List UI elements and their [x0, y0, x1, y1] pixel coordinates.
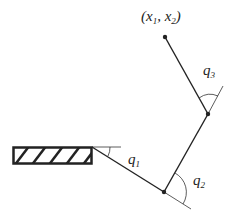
q1-angle-arc	[108, 147, 110, 156]
joint-2	[206, 112, 210, 116]
end-effector	[163, 35, 167, 39]
link-1-extension	[164, 192, 191, 209]
link-2-extension	[208, 86, 223, 114]
end-effector-label: (x1, x2)	[141, 8, 181, 26]
q3-label: q3	[203, 62, 216, 80]
fixed-base	[14, 145, 99, 166]
q2-label: q2	[193, 172, 206, 190]
joint-1	[162, 190, 166, 194]
manipulator-diagram: (x1, x2) q1 q2 q3	[0, 0, 235, 219]
link-3	[165, 37, 208, 114]
q1-label: q1	[128, 151, 140, 169]
q2-angle-arc	[175, 173, 186, 204]
q3-angle-arc	[199, 94, 218, 98]
